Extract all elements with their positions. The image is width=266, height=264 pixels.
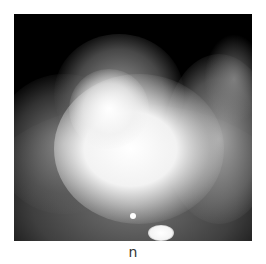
bright-spot-small — [130, 213, 136, 219]
grayscale-image — [14, 14, 252, 241]
figure-caption: n — [0, 244, 266, 260]
bright-spot-large — [148, 225, 174, 241]
bright-upper — [69, 69, 149, 149]
